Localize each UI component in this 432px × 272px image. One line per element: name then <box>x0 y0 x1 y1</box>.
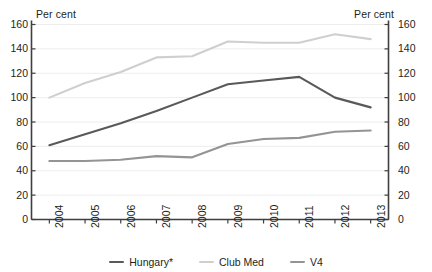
left-axis-tick-label: 0 <box>22 214 28 225</box>
left-axis-tick-label: 100 <box>10 92 28 103</box>
series-line-v4 <box>49 131 370 161</box>
left-axis-tick-label: 120 <box>10 68 28 79</box>
legend-line-swatch-icon <box>290 261 305 263</box>
legend-item[interactable]: Hungary* <box>109 256 173 268</box>
x-axis-tick-label: 2008 <box>197 204 208 227</box>
right-axis-tick-label: 20 <box>398 190 410 201</box>
plot-area <box>0 0 432 272</box>
legend-item[interactable]: V4 <box>290 256 323 268</box>
x-axis-tick-label: 2010 <box>269 204 280 227</box>
right-axis-tick-label: 0 <box>398 214 404 225</box>
left-axis-tick-label: 140 <box>10 43 28 54</box>
left-axis-tick-label: 20 <box>16 190 28 201</box>
legend-label: V4 <box>310 256 323 268</box>
legend-item[interactable]: Club Med <box>199 256 264 268</box>
legend-label: Club Med <box>219 256 264 268</box>
x-axis-tick-label: 2009 <box>233 204 244 227</box>
x-axis-tick-label: 2013 <box>376 204 387 227</box>
legend-line-swatch-icon <box>109 261 124 263</box>
right-axis-tick-label: 80 <box>398 117 410 128</box>
x-axis-tick-label: 2005 <box>90 204 101 227</box>
series-line-clubmed <box>49 34 370 97</box>
left-axis-tick-label: 60 <box>16 141 28 152</box>
right-axis-tick-label: 140 <box>398 43 416 54</box>
legend-line-swatch-icon <box>199 261 214 263</box>
x-axis-tick-label: 2004 <box>54 204 65 227</box>
x-axis-tick-label: 2007 <box>161 204 172 227</box>
legend-label: Hungary* <box>129 256 173 268</box>
right-axis-unit-label: Per cent <box>354 8 394 20</box>
left-axis-unit-label: Per cent <box>36 8 76 20</box>
chart-container: Per cent Per cent 020406080100120140160 … <box>0 0 432 272</box>
x-axis-tick-label: 2012 <box>340 204 351 227</box>
right-axis-tick-label: 100 <box>398 92 416 103</box>
left-axis-tick-label: 40 <box>16 165 28 176</box>
right-axis-tick-label: 120 <box>398 68 416 79</box>
right-axis-tick-label: 60 <box>398 141 410 152</box>
x-axis-tick-label: 2011 <box>304 205 315 228</box>
x-axis-tick-label: 2006 <box>126 204 137 227</box>
right-axis-tick-label: 160 <box>398 19 416 30</box>
left-axis-tick-label: 160 <box>10 19 28 30</box>
right-axis-tick-label: 40 <box>398 165 410 176</box>
left-axis-tick-label: 80 <box>16 117 28 128</box>
chart-legend: Hungary*Club MedV4 <box>0 256 432 268</box>
